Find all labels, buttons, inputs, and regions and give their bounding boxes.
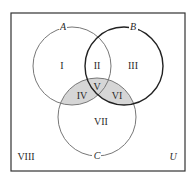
region-label-ii: II (94, 60, 101, 71)
set-label-c: C (94, 150, 101, 161)
region-label-viii: VIII (17, 151, 34, 162)
universe-label: U (169, 151, 177, 162)
region-label-vii: VII (94, 116, 108, 127)
region-label-iv: IV (77, 90, 88, 101)
venn-diagram: A B C U I II III IV V VI VII VIII (0, 0, 195, 180)
region-label-vi: VI (112, 90, 123, 101)
region-label-v: V (93, 81, 101, 92)
set-label-b: B (130, 21, 136, 32)
region-label-i: I (60, 60, 63, 71)
set-label-a: A (59, 21, 67, 32)
region-label-iii: III (128, 60, 138, 71)
